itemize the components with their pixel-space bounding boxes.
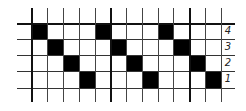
grid-vertical-line [95,8,96,102]
twill-draft-grid [0,0,246,111]
filled-cell [95,23,111,40]
filled-cell [173,39,190,56]
grid-vertical-line [47,8,48,102]
grid-vertical-line [63,8,64,102]
grid-vertical-line [205,8,206,102]
filled-cell [205,71,222,89]
grid-vertical-line [142,8,143,102]
filled-cell [189,55,206,72]
row-label-3: 3 [221,39,235,55]
filled-cell [79,71,96,89]
grid-vertical-line [110,8,112,102]
grid-vertical-line [31,8,33,102]
grid-vertical-line [158,8,159,102]
row-label-4: 4 [221,23,235,39]
row-label-1: 1 [221,71,235,87]
filled-cell [126,55,143,72]
grid-vertical-line [173,8,174,102]
row-label-2: 2 [221,55,235,71]
filled-cell [63,55,80,72]
filled-cell [142,71,159,89]
grid-vertical-line [126,8,127,102]
filled-cell [47,39,64,56]
filled-cell [158,23,174,40]
grid-vertical-line [79,8,80,102]
grid-vertical-line [189,8,191,102]
filled-cell [31,23,48,40]
filled-cell [110,39,127,56]
